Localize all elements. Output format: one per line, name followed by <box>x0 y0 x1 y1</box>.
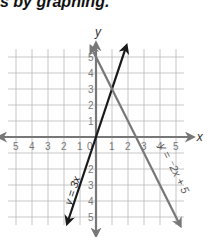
x-tick-label: 4 <box>29 141 35 152</box>
y-tick-label: 3 <box>88 180 94 191</box>
x-tick-label: 5 <box>173 141 179 152</box>
x-tick-label: 3 <box>45 141 51 152</box>
y-tick-label: 4 <box>88 196 94 207</box>
plotted-lines <box>68 48 179 223</box>
x-tick-label: 1 <box>109 141 115 152</box>
label-y-equals-3x: y = 3x <box>61 174 82 207</box>
y-tick-label: 2 <box>88 164 94 175</box>
x-tick-label: 5 <box>13 141 19 152</box>
coordinate-graph: xy 54321012345123452345 y = 3xy = ⁻2x + … <box>0 0 207 237</box>
y-tick-label: 4 <box>88 68 94 79</box>
y-tick-label: 5 <box>88 212 94 223</box>
y-tick-label: 3 <box>88 84 94 95</box>
y-axis-label: y <box>94 25 102 39</box>
x-tick-label: 1 <box>77 141 83 152</box>
x-tick-label: 2 <box>61 141 67 152</box>
y-tick-label: 2 <box>88 100 94 111</box>
x-axis-label: x <box>196 130 204 144</box>
x-tick-label: 2 <box>125 141 131 152</box>
y-tick-label: 1 <box>88 116 94 127</box>
